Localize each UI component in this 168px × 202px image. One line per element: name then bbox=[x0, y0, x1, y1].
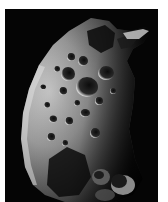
photo-frame bbox=[5, 9, 158, 202]
moon-image bbox=[5, 9, 158, 202]
